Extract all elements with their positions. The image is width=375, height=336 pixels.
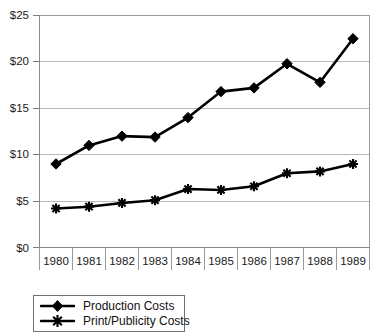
y-axis-label-20: $20	[10, 55, 29, 67]
y-axis-label-25: $25	[10, 9, 29, 21]
star-icon	[52, 315, 64, 327]
star-icon	[51, 204, 61, 214]
x-axis-label-1982: 1982	[109, 255, 135, 267]
legend-label-production-costs: Production Costs	[83, 299, 174, 313]
star-icon	[315, 166, 325, 176]
diamond-icon	[84, 140, 94, 150]
x-axis: 1980 1981 1982 1983 1984 1985 1986 1987 …	[39, 248, 370, 271]
y-axis-label-0: $0	[16, 242, 29, 254]
diamond-icon	[51, 159, 61, 169]
x-axis-label-1985: 1985	[208, 255, 234, 267]
diamond-icon	[117, 131, 127, 141]
star-icon	[282, 168, 292, 178]
data-series-layer	[51, 34, 358, 214]
star-icon	[348, 159, 358, 169]
line-chart: $25 $20 $15 $10 $5 $0 1980 1981 1982	[0, 0, 375, 336]
x-axis-label-1986: 1986	[241, 255, 267, 267]
star-icon	[249, 181, 259, 191]
y-axis: $25 $20 $15 $10 $5 $0	[10, 9, 40, 254]
x-axis-label-1981: 1981	[76, 255, 102, 267]
chart-canvas: $25 $20 $15 $10 $5 $0 1980 1981 1982	[0, 0, 375, 336]
x-axis-label-1983: 1983	[142, 255, 168, 267]
plot-frame	[40, 16, 370, 248]
x-axis-label-1987: 1987	[274, 255, 300, 267]
star-icon	[183, 184, 193, 194]
star-icon	[216, 185, 226, 195]
star-icon	[150, 195, 160, 205]
x-axis-label-1989: 1989	[340, 255, 366, 267]
legend-label-print-publicity-costs: Print/Publicity Costs	[83, 314, 190, 328]
x-axis-label-1980: 1980	[43, 255, 69, 267]
chart-legend: Production Costs Print/Publicity Costs	[34, 296, 190, 332]
diamond-icon	[150, 132, 160, 142]
x-axis-label-1984: 1984	[175, 255, 201, 267]
series-line-production-costs	[56, 39, 353, 164]
y-axis-label-10: $10	[10, 148, 29, 160]
series-production-costs	[51, 34, 358, 170]
y-axis-label-15: $15	[10, 102, 29, 114]
star-icon	[84, 202, 94, 212]
star-icon	[117, 198, 127, 208]
series-print-publicity-costs	[51, 159, 358, 214]
x-axis-label-1988: 1988	[307, 255, 333, 267]
y-axis-label-5: $5	[16, 195, 29, 207]
plot-border	[40, 16, 370, 248]
